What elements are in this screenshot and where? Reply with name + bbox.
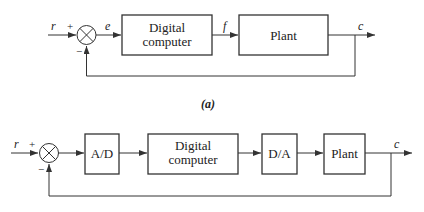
- diagram-a-labels: r + − e Digital computer f Plant c (a): [51, 19, 364, 111]
- input-label-r: r: [14, 137, 19, 151]
- digital-computer-label-line1: Digital: [175, 138, 211, 153]
- minus-sign: −: [76, 45, 82, 57]
- digital-computer-label-line1: Digital: [149, 20, 185, 35]
- da-label: D/A: [268, 146, 291, 161]
- minus-sign: −: [38, 163, 44, 175]
- diagram-a: [48, 15, 375, 76]
- digital-computer-label-line2: computer: [142, 34, 192, 49]
- caption-a: (a): [201, 97, 215, 111]
- error-label-e: e: [105, 19, 111, 33]
- summing-junction-icon: [77, 26, 96, 45]
- plant-label: Plant: [331, 146, 358, 161]
- plant-label: Plant: [270, 28, 297, 43]
- plus-sign: +: [67, 20, 73, 32]
- signal-label-f: f: [223, 19, 228, 33]
- output-label-c: c: [394, 137, 400, 151]
- output-label-c: c: [358, 19, 364, 33]
- plus-sign: +: [29, 138, 35, 150]
- diagram-b-labels: r + − A/D Digital computer D/A Plant c: [14, 137, 400, 175]
- block-diagrams: r + − e Digital computer f Plant c (a) r…: [0, 0, 424, 212]
- input-label-r: r: [51, 19, 56, 33]
- digital-computer-label-line2: computer: [168, 152, 218, 167]
- summing-junction-icon: [40, 144, 59, 163]
- ad-label: A/D: [91, 146, 113, 161]
